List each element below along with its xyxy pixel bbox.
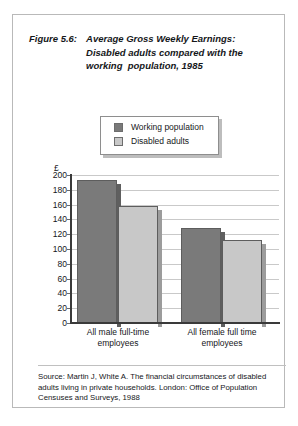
bar-face: [77, 180, 117, 323]
chart-legend: Working population Disabled adults: [100, 116, 219, 155]
legend-item-disabled-adults: Disabled adults: [114, 136, 218, 146]
source-line-3: Censuses and Surveys, 1988: [38, 393, 288, 404]
figure-title-line-2: Disabled adults compared with the: [86, 46, 243, 60]
y-axis-tick-label: 100: [53, 245, 67, 254]
bar-side-shadow: [158, 210, 162, 327]
y-axis-tick-label: 180: [53, 185, 67, 194]
source-separator: [38, 365, 286, 366]
category-label-line: All male full-time: [58, 327, 178, 338]
legend-item-working-population: Working population: [114, 122, 218, 132]
y-axis-line: [70, 174, 72, 324]
legend-swatch-working-population: [114, 123, 123, 132]
source-note: Source: Martin J, White A. The financial…: [38, 372, 288, 404]
bar-working-population-group-2: [181, 228, 221, 323]
bar-side-shadow: [262, 244, 266, 327]
legend-swatch-disabled-adults: [114, 137, 123, 146]
bar-disabled-adults-group-1: [118, 206, 158, 323]
x-axis-category-labels: All male full-timeemployeesAll female fu…: [71, 327, 279, 353]
bar-face: [181, 228, 221, 323]
source-line-2: adults living in private households. Lon…: [38, 383, 288, 394]
y-axis-tick-label: 120: [53, 230, 67, 239]
x-axis-category-label-2: All female full timeemployees: [162, 327, 282, 349]
y-axis-tick-label: 40: [58, 289, 67, 298]
category-label-line: employees: [58, 338, 178, 349]
y-axis-tick-label: 60: [58, 274, 67, 283]
legend-label-working-population: Working population: [131, 122, 204, 132]
figure-title: Average Gross Weekly Earnings: Disabled …: [86, 32, 243, 73]
y-axis-tick-label: 140: [53, 215, 67, 224]
y-axis-tick-label: 200: [53, 171, 67, 180]
y-axis-tick-label: 80: [58, 259, 67, 268]
figure-title-block: Figure 5.6: Average Gross Weekly Earning…: [29, 32, 277, 73]
category-label-line: employees: [162, 338, 282, 349]
bar-face: [222, 240, 262, 323]
bar-working-population-group-1: [77, 180, 117, 323]
bar-chart-plot-area: [71, 175, 279, 323]
source-line-1: Source: Martin J, White A. The financial…: [38, 372, 288, 383]
category-label-line: All female full time: [162, 327, 282, 338]
legend-label-disabled-adults: Disabled adults: [131, 136, 189, 146]
bar-disabled-adults-group-2: [222, 240, 262, 323]
y-axis-tick-label: 160: [53, 200, 67, 209]
figure-title-line-3: working population, 1985: [86, 59, 243, 73]
gridline: [71, 175, 279, 176]
bar-face: [118, 206, 158, 323]
y-axis-labels: 020406080100120140160180200: [37, 175, 67, 323]
figure-frame: Figure 5.6: Average Gross Weekly Earning…: [12, 14, 285, 408]
x-axis-line: [70, 322, 280, 324]
y-axis-tick-label: 20: [58, 304, 67, 313]
x-axis-category-label-1: All male full-timeemployees: [58, 327, 178, 349]
figure-number: Figure 5.6:: [29, 32, 86, 46]
figure-title-line-1: Average Gross Weekly Earnings:: [86, 32, 243, 46]
